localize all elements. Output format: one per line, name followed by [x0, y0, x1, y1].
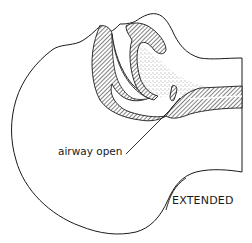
extended-position-label: EXTENDED — [172, 194, 234, 207]
airway-open-label: airway open — [58, 145, 122, 157]
airway-leader-line — [126, 98, 180, 154]
